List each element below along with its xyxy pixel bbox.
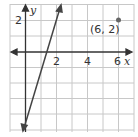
point-label: (6, 2) [90, 23, 120, 36]
tick-x-4: 4 [84, 55, 91, 68]
y-axis [23, 5, 29, 132]
tick-x-2: 2 [53, 55, 60, 68]
x-axis-label: x [124, 55, 131, 68]
y-axis-label: y [29, 4, 37, 17]
coordinate-plane: y x 2 4 6 2 (6, 2) [0, 0, 138, 137]
tick-x-6: 6 [114, 55, 121, 68]
tick-y-2: 2 [15, 14, 22, 27]
point-6-2 [116, 18, 121, 23]
